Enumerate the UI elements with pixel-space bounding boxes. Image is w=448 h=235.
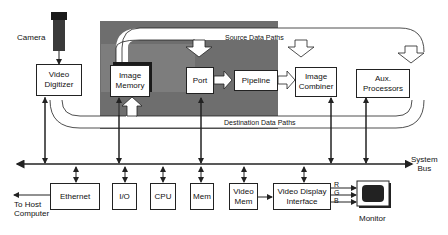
video-display-interface-box: Video Display Interface	[273, 183, 331, 210]
to-host-label: To Host Computer	[14, 200, 49, 218]
image-combiner-box: Image Combiner	[295, 67, 337, 97]
mem-box: Mem	[190, 183, 214, 210]
monitor-label: Monitor	[359, 214, 386, 223]
cpu-box: CPU	[150, 183, 176, 210]
system-bus-label: System Bus	[411, 155, 438, 173]
camera-icon	[53, 19, 65, 51]
video-digitizer-box: Video Digitizer	[36, 64, 82, 96]
destination-data-paths-label: Destination Data Paths	[224, 118, 296, 127]
monitor-icon	[357, 181, 391, 208]
port-box: Port	[186, 67, 214, 94]
source-data-paths-label: Source Data Paths	[225, 33, 284, 42]
pipeline-box: Pipeline	[234, 70, 278, 91]
image-memory-box: Image Memory	[110, 65, 150, 97]
aux-processors-box: Aux. Processors	[356, 69, 410, 98]
io-box: I/O	[112, 183, 137, 210]
camera-label: Camera	[17, 33, 45, 42]
b-label: B	[334, 196, 339, 205]
ethernet-box: Ethernet	[50, 183, 100, 210]
video-mem-box: Video Mem	[229, 183, 258, 210]
